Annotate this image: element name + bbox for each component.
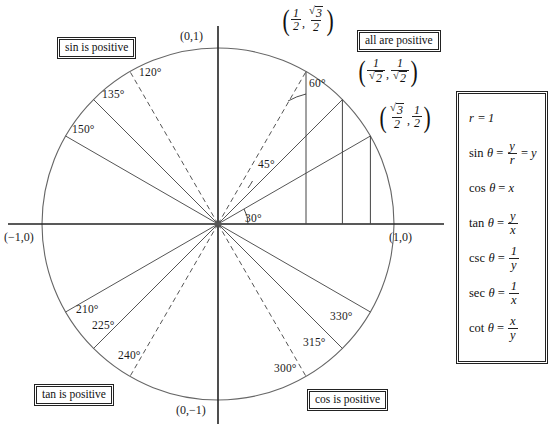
angle-ray-300 [218,224,306,376]
angle-ray-210 [66,224,218,312]
coord-45-x-fraction: 12 [367,57,385,84]
unit-circle-diagram: (0,1) (0,−1) (−1,0) (1,0) 30°45°60°120°1… [0,0,557,427]
angle-label-60: 60° [309,78,326,90]
tan-formula-theta: θ [485,216,494,231]
cot-formula-numerator: x [508,315,518,328]
coord-30-x-denominator: 2 [392,117,402,131]
angle-ray-240 [130,224,218,376]
coord-60-x-numerator: 1 [291,7,301,20]
cot-formula: cot θ=xy [469,311,545,346]
sec-formula: sec θ=1x [469,276,545,311]
cos-formula-equals: = [498,181,505,196]
coord-60-right-paren: ) [326,8,333,31]
coord-45-right-paren: ) [410,59,417,82]
coord-30: (32,12) [378,103,432,130]
coord-60-y-denominator: 2 [311,20,321,34]
coord-30-right-paren: ) [423,105,430,128]
coord-60: (12,32) [281,6,335,33]
angle-ray-330 [218,224,370,312]
sec-formula-function: sec [469,286,485,301]
csc-formula-theta: θ [486,251,495,266]
axis-label-right: (1,0) [389,231,412,243]
csc-formula-equals: = [498,251,505,266]
cot-formula-theta: θ [485,321,494,336]
coord-45-comma: , [386,67,389,84]
angle-label-120: 120° [139,67,162,79]
coord-45-y-fraction: 12 [391,57,409,84]
angle-label-210: 210° [76,304,99,316]
sec-formula-equals: = [498,286,505,301]
csc-formula-function: csc [469,251,485,266]
tan-formula-fraction: yx [508,210,518,237]
angle-label-240: 240° [118,350,141,362]
sec-formula-numerator: 1 [509,280,519,293]
tan-formula-equals: = [497,216,504,231]
coord-60-comma: , [302,16,305,33]
angle-ray-30 [218,136,370,224]
csc-formula-denominator: y [509,258,519,272]
coord-60-left-paren: ( [282,8,289,31]
cot-formula-denominator: y [508,328,518,342]
cos-formula-theta: θ [487,181,496,196]
cos-formula-function: cos [469,181,486,196]
tan-formula-numerator: y [508,210,518,223]
coord-45-left-paren: ( [358,59,365,82]
coord-45-x-denominator: 2 [367,70,385,85]
cos-formula: cos θ=x [469,171,545,206]
axes [8,26,444,424]
angle-ray-45 [218,100,342,224]
cot-formula-function: cot [469,321,484,336]
coord-45: (12,12) [357,57,419,84]
angle-ray-135 [94,100,218,224]
sin-formula-numerator: y [507,140,517,153]
sin-formula-tail-value: y [531,146,537,161]
axis-label-left: (−1,0) [4,231,34,243]
sec-formula-theta: θ [486,286,495,301]
r-equals-one-value: 1 [488,111,494,126]
angle-arc-markers [244,94,306,224]
coord-60-y-numerator: 3 [307,6,325,20]
angle-label-135: 135° [102,89,125,101]
tan-formula: tan θ=yx [469,206,545,241]
coord-30-x-numerator: 3 [388,103,406,117]
angle-label-225: 225° [92,320,115,332]
coord-30-comma: , [407,113,410,130]
cot-formula-equals: = [497,321,504,336]
angle-ray-120 [130,72,218,224]
angle-label-45: 45° [258,159,275,171]
r-equals-one-function: r [469,111,474,126]
coord-60-x-denominator: 2 [291,19,301,33]
all-are-positive-label: all are positive [359,32,439,50]
sec-formula-denominator: x [509,293,519,307]
sin-is-positive-box: sin is positive [57,37,136,59]
coord-60-x-fraction: 12 [291,7,301,33]
coord-45-y-denominator: 2 [391,70,409,85]
angle-label-30: 30° [245,213,262,225]
coord-30-y-numerator: 1 [412,104,422,117]
sin-formula: sin θ=yr=y [469,136,545,171]
sin-formula-function: sin [469,146,484,161]
coord-45-x-numerator: 1 [371,57,381,70]
csc-formula: csc θ=1y [469,241,545,276]
angle-label-300: 300° [274,363,297,375]
sec-formula-fraction: 1x [509,280,519,307]
r-equals-one: r=1 [469,101,545,136]
coord-45-y-numerator: 1 [395,57,405,70]
angle-ray-150 [66,136,218,224]
cot-formula-fraction: xy [508,315,518,342]
sin-formula-theta: θ [485,146,494,161]
csc-formula-numerator: 1 [509,245,519,258]
formula-panel: r=1sin θ=yr=ycos θ=xtan θ=yxcsc θ=1ysec … [456,91,548,364]
coord-30-y-fraction: 12 [412,104,422,130]
tan-is-positive-box: tan is positive [34,384,114,406]
r-equals-one-equals: = [478,111,485,126]
axis-label-top: (0,1) [180,30,203,42]
coord-30-x-fraction: 32 [388,103,406,130]
tan-formula-function: tan [469,216,484,231]
angle-label-330: 330° [330,311,353,323]
angle-label-315: 315° [303,337,326,349]
tan-formula-denominator: x [508,223,518,237]
sin-formula-fraction: yr [507,140,517,167]
axis-label-bottom: (0,−1) [176,404,206,416]
csc-formula-fraction: 1y [509,245,519,272]
